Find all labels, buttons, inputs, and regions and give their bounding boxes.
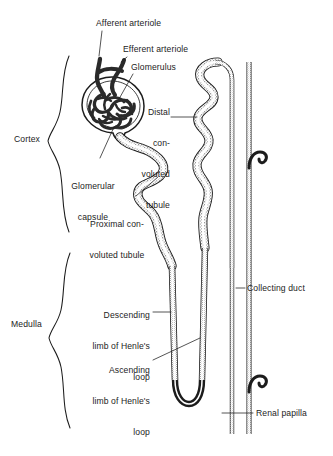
label-line: limb of Henle's bbox=[76, 396, 150, 406]
region-label-medulla: Medulla bbox=[11, 319, 59, 329]
label-line: Ascending bbox=[76, 365, 150, 375]
collecting-duct-shape bbox=[249, 62, 266, 434]
label-line: Descending bbox=[78, 310, 150, 320]
label-line: Distal bbox=[122, 107, 170, 117]
region-label-cortex: Cortex bbox=[14, 134, 56, 144]
label-collecting-duct: Collecting duct bbox=[247, 283, 333, 293]
label-glomerulus: Glomerulus bbox=[131, 62, 201, 72]
medulla-brace bbox=[49, 253, 70, 428]
label-afferent-arteriole: Afferent arteriole bbox=[96, 18, 182, 28]
label-efferent-arteriole: Efferent arteriole bbox=[123, 44, 209, 54]
nephron-diagram-page: Cortex Medulla Afferent arteriole Effere… bbox=[0, 0, 333, 456]
label-proximal-convoluted-tubule: Proximal con- voluted tubule bbox=[78, 198, 156, 281]
label-line: loop bbox=[76, 427, 150, 437]
distal-convoluted-tubule-shape bbox=[197, 62, 218, 248]
label-renal-papilla: Renal papilla bbox=[256, 408, 333, 418]
label-line: voluted tubule bbox=[78, 250, 156, 260]
connecting-tubule-shape bbox=[215, 62, 232, 434]
label-line: voluted bbox=[122, 169, 170, 179]
label-line: con- bbox=[122, 138, 170, 148]
label-line: Proximal con- bbox=[78, 219, 156, 229]
loop-of-henle-shape bbox=[172, 248, 205, 404]
label-line: Glomerular bbox=[58, 181, 128, 191]
label-ascending-limb: Ascending limb of Henle's loop bbox=[76, 344, 150, 456]
